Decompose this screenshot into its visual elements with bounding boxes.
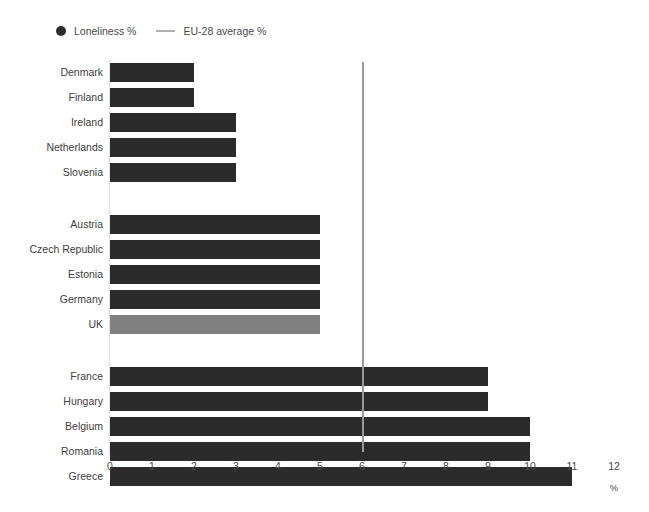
category-label: Finland — [0, 88, 103, 107]
category-label: France — [0, 367, 103, 386]
category-label: Greece — [0, 467, 103, 486]
bar[interactable] — [110, 113, 236, 132]
x-axis-tick-label: 3 — [233, 460, 239, 472]
x-axis-tick-label: 10 — [524, 460, 536, 472]
category-label: Germany — [0, 290, 103, 309]
bar[interactable] — [110, 88, 194, 107]
category-label: Belgium — [0, 417, 103, 436]
x-axis-tick-label: 7 — [401, 460, 407, 472]
x-axis-tick-label: 9 — [485, 460, 491, 472]
legend-item-eu28-average[interactable]: EU-28 average % — [156, 25, 266, 37]
bar[interactable] — [110, 417, 530, 436]
x-axis-title: % — [610, 482, 618, 494]
eu28-average-reference-line — [362, 62, 364, 452]
category-label: Netherlands — [0, 138, 103, 157]
category-label: Ireland — [0, 113, 103, 132]
category-label: Hungary — [0, 392, 103, 411]
bar[interactable] — [110, 315, 320, 334]
x-axis-tick-label: 1 — [149, 460, 155, 472]
legend-label-loneliness: Loneliness % — [74, 25, 136, 37]
x-axis-tick-label: 4 — [275, 460, 281, 472]
x-axis-tick-label: 2 — [191, 460, 197, 472]
bar[interactable] — [110, 138, 236, 157]
bar[interactable] — [110, 290, 320, 309]
legend-label-eu28-average: EU-28 average % — [183, 25, 266, 37]
bar[interactable] — [110, 367, 488, 386]
x-axis-tick-label: 5 — [317, 460, 323, 472]
bar[interactable] — [110, 265, 320, 284]
legend-item-loneliness[interactable]: Loneliness % — [56, 25, 136, 37]
category-label: Estonia — [0, 265, 103, 284]
legend-line-icon — [156, 30, 175, 32]
category-label: Czech Republic — [0, 240, 103, 259]
plot-area: DenmarkFinlandIrelandNetherlandsSlovenia… — [110, 60, 614, 455]
x-axis-tick-label: 6 — [359, 460, 365, 472]
x-axis-tick-label: 8 — [443, 460, 449, 472]
bar[interactable] — [110, 467, 572, 486]
bar[interactable] — [110, 215, 320, 234]
x-axis-tick-label: 12 — [608, 460, 620, 472]
category-label: Slovenia — [0, 163, 103, 182]
bar[interactable] — [110, 63, 194, 82]
bar[interactable] — [110, 392, 488, 411]
category-label: Romania — [0, 442, 103, 461]
bar[interactable] — [110, 163, 236, 182]
category-label: Austria — [0, 215, 103, 234]
x-axis-tick-label: 11 — [567, 460, 578, 472]
category-label: UK — [0, 315, 103, 334]
legend-dot-icon — [56, 26, 66, 36]
bar[interactable] — [110, 442, 530, 461]
loneliness-bar-chart: Loneliness % EU-28 average % DenmarkFinl… — [0, 0, 649, 512]
category-label: Denmark — [0, 63, 103, 82]
bar[interactable] — [110, 240, 320, 259]
x-axis-tick-label: 0 — [107, 460, 113, 472]
chart-legend: Loneliness % EU-28 average % — [56, 22, 266, 40]
